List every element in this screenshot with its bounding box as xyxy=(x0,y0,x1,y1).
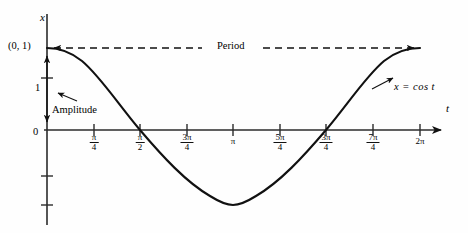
x-axis xyxy=(44,124,441,136)
x-tick-label: π4 xyxy=(90,133,99,153)
y-tick-label-one: 1 xyxy=(35,83,40,94)
cosine-graph-figure: x t (0, 1) 1 0 Amplitude Period x = cos … xyxy=(0,0,468,233)
x-tick-label: 3π4 xyxy=(319,133,332,153)
x-axis-label: t xyxy=(446,103,449,114)
x-tick-label: 7π4 xyxy=(366,133,379,153)
x-tick-label: 2π xyxy=(415,136,424,146)
curve-label-pointer-icon xyxy=(372,78,393,89)
x-tick-label: 3π4 xyxy=(180,133,193,153)
origin-label: 0 xyxy=(33,127,38,138)
x-tick-label: π2 xyxy=(136,133,145,153)
period-label: Period xyxy=(214,41,247,52)
y-axis-label: x xyxy=(40,12,45,23)
amplitude-pointer-icon xyxy=(58,93,77,101)
point-label-0-1: (0, 1) xyxy=(8,41,31,52)
curve-label: x = cos t xyxy=(394,82,435,93)
x-tick-label: 5π4 xyxy=(273,133,286,153)
x-tick-label: π xyxy=(231,136,236,146)
amplitude-label: Amplitude xyxy=(52,105,97,116)
graph-canvas xyxy=(0,0,468,233)
